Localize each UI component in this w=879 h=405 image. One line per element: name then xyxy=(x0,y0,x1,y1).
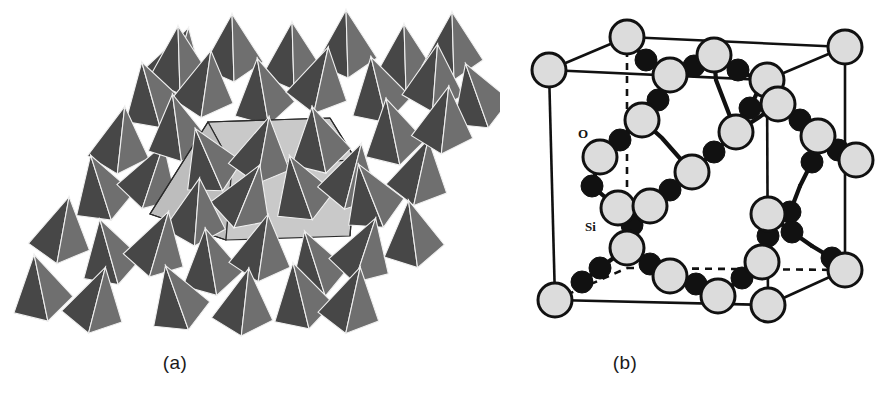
caption-panel-a: (a) xyxy=(135,352,215,374)
oxygen-corner-back-top-right xyxy=(828,30,862,64)
oxygen-labeled-O xyxy=(583,140,617,174)
oxygen-corner-front-bot-left xyxy=(538,283,572,317)
caption-panel-b: (b) xyxy=(585,352,665,374)
oxygen-corner-back-bot-right xyxy=(828,253,862,287)
panel-b-unit-cell: .edge { stroke:#111111; stroke-width:2.6… xyxy=(500,0,879,345)
unit-cell-ball-stick-svg: .edge { stroke:#111111; stroke-width:2.6… xyxy=(500,0,879,345)
tetrahedra-framework-svg: .f-dark { fill:#474747; stroke:#f0f0f0; … xyxy=(0,0,500,345)
figure-root: .f-dark { fill:#474747; stroke:#f0f0f0; … xyxy=(0,0,879,405)
oxygen-corner-front-top-left xyxy=(532,53,566,87)
oxygen-label: O xyxy=(578,126,588,141)
silicon-labeled-Si xyxy=(571,271,593,293)
silicon-label: Si xyxy=(585,219,596,234)
oxygen-corner-back-top-left xyxy=(610,20,644,54)
oxygen-corner-front-bot-right xyxy=(751,288,785,322)
panel-a-polyhedral-framework: .f-dark { fill:#474747; stroke:#f0f0f0; … xyxy=(0,0,500,345)
